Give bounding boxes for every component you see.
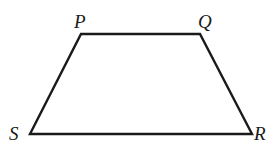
trapezoid-pqrs: [30, 34, 252, 134]
vertex-label-r: R: [254, 124, 266, 143]
vertex-label-p: P: [74, 12, 86, 31]
trapezoid-diagram: [0, 0, 277, 146]
vertex-label-s: S: [9, 124, 19, 143]
vertex-label-q: Q: [198, 12, 212, 31]
